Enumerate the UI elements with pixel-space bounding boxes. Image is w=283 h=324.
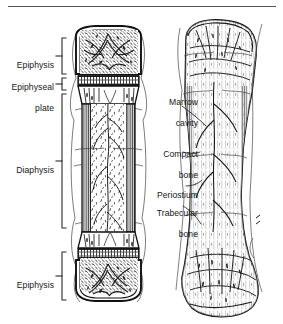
label-trabecular-bone-line2: bone [179,229,198,239]
label-epiphysis-top-line1: Epiphysis [17,60,54,70]
label-epiphyseal-plate: Epiphyseal plate [0,72,54,113]
metaphysis-bottom [78,232,139,248]
diaphysis-structure [75,104,142,232]
label-marrow-cavity-line1: Marrow [169,97,198,107]
label-epiphyseal-plate-line2: plate [35,103,54,113]
label-diaphysis: Diaphysis [0,155,54,175]
metaphysis-top [78,86,139,104]
label-compact-bone-line2: bone [179,170,198,180]
epiphyseal-plate-top [78,76,139,85]
label-trabecular-bone: Trabecular bone [134,198,198,239]
label-compact-bone: Compact bone [140,139,198,180]
label-epiphysis-bottom: Epiphysis [0,270,54,290]
label-diaphysis-line1: Diaphysis [16,165,54,175]
label-epiphysis-top: Epiphysis [0,50,54,70]
epiphysis-bottom-structure [76,258,141,302]
label-compact-bone-line1: Compact [163,149,198,159]
label-epiphyseal-plate-line1: Epiphyseal [11,82,54,92]
left-bone-section [70,26,146,302]
compact-bone-wall-left [82,104,91,232]
label-marrow-cavity-line2: cavity [176,118,198,128]
label-epiphysis-bottom-line1: Epiphysis [17,280,54,290]
epiphyseal-plate-bottom [78,249,139,258]
label-trabecular-bone-line1: Trabecular [157,208,198,218]
epiphysis-top-structure [76,26,141,74]
label-marrow-cavity: Marrow cavity [140,87,198,128]
